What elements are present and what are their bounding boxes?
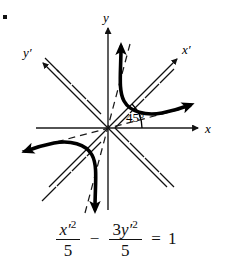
equation-term-2-variable: y′ <box>121 220 132 239</box>
equation-term-2: 3y′2 5 <box>109 218 142 261</box>
y-prime-tick <box>72 85 86 99</box>
equation-right-hand-side: 1 <box>168 229 177 249</box>
y-prime-tick <box>87 100 101 114</box>
x-prime-axis <box>49 59 177 187</box>
equation-term-1: x′2 5 <box>56 218 81 261</box>
y-prime-tick <box>145 158 159 172</box>
y-prime-tick <box>57 70 71 84</box>
equation-term-2-denominator: 5 <box>109 240 142 261</box>
equation-term-2-exponent: 2 <box>132 218 138 230</box>
angle-label: 45° <box>126 110 144 125</box>
y-prime-tick <box>160 173 174 187</box>
y-prime-axis-label: y′ <box>21 45 32 60</box>
equation-term-2-numerator: 3y′2 <box>109 218 142 240</box>
equation-term-1-exponent: 2 <box>71 218 77 230</box>
equation-term-2-coefficient: 3 <box>113 220 122 239</box>
equation-term-1-variable: x′ <box>60 220 71 239</box>
x-prime-tick <box>42 187 56 201</box>
equation-term-1-numerator: x′2 <box>56 218 81 240</box>
y-axis-label: y <box>101 10 109 25</box>
equation-equals-sign: = <box>148 229 164 249</box>
x-prime-tick <box>72 157 86 171</box>
equation-operator: − <box>87 229 103 249</box>
y-prime-axis <box>43 63 167 187</box>
x-prime-tick <box>145 84 159 98</box>
x-prime-tick <box>160 69 174 83</box>
hyperbola-figure: x y x′ y′ 45° x′2 5 − 3y′2 5 = 1 <box>0 0 230 267</box>
y-prime-tick <box>115 128 129 142</box>
x-prime-axis-label: x′ <box>181 42 191 57</box>
x-prime-tick <box>57 172 71 186</box>
x-axis-label: x <box>204 121 211 136</box>
y-prime-tick <box>45 58 59 72</box>
equation-term-1-denominator: 5 <box>56 240 81 261</box>
equation-caption: x′2 5 − 3y′2 5 = 1 <box>0 218 230 261</box>
y-prime-tick <box>130 143 144 157</box>
